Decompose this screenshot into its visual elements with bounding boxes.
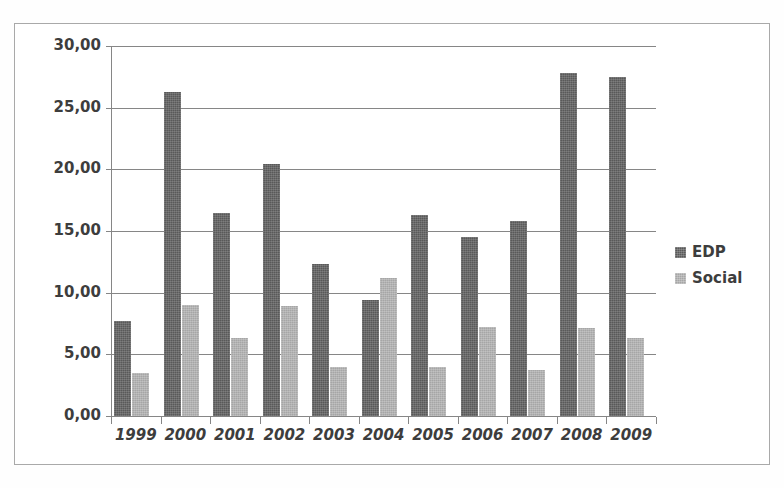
- bar-edp-2009: [609, 77, 626, 416]
- y-axis-tick-label: 10,00: [29, 285, 101, 300]
- bar-group: [507, 46, 557, 416]
- x-axis-tick: [210, 417, 211, 424]
- legend-label: EDP: [692, 245, 726, 260]
- x-axis-label-2009: 2009: [603, 428, 659, 443]
- x-axis-tick: [161, 417, 162, 424]
- chart-legend: EDPSocial: [675, 239, 767, 291]
- bar-social-2002: [281, 306, 298, 416]
- x-axis-label-2004: 2004: [356, 428, 412, 443]
- bar-group: [606, 46, 656, 416]
- bar-edp-2007: [510, 221, 527, 416]
- x-axis-label-2000: 2000: [157, 428, 213, 443]
- x-axis-label-2003: 2003: [306, 428, 362, 443]
- bar-social-2007: [528, 370, 545, 416]
- bar-edp-2003: [312, 264, 329, 416]
- x-axis-tick: [359, 417, 360, 424]
- bar-edp-2004: [362, 300, 379, 416]
- x-axis-tick: [458, 417, 459, 424]
- bar-group: [408, 46, 458, 416]
- x-axis-tick: [309, 417, 310, 424]
- y-axis-tick-label: 5,00: [29, 346, 101, 361]
- bar-edp-2000: [164, 92, 181, 416]
- bar-social-2006: [479, 327, 496, 416]
- bar-social-2003: [330, 367, 347, 416]
- y-axis-tick-label: 15,00: [29, 223, 101, 238]
- x-axis-labels: 1999200020012002200320042005200620072008…: [111, 428, 656, 458]
- x-axis-tick: [111, 417, 112, 424]
- plot-area: [111, 46, 656, 416]
- bar-social-2000: [182, 305, 199, 416]
- x-axis-label-2007: 2007: [504, 428, 560, 443]
- bar-group: [210, 46, 260, 416]
- y-axis-tick-label: 25,00: [29, 100, 101, 115]
- bar-social-1999: [132, 373, 149, 416]
- bar-social-2004: [380, 278, 397, 416]
- y-axis-tick-label: 0,00: [29, 408, 101, 423]
- x-axis-label-2006: 2006: [455, 428, 511, 443]
- x-axis-tick: [408, 417, 409, 424]
- y-axis-tick-label: 20,00: [29, 161, 101, 176]
- x-axis-label-2001: 2001: [207, 428, 263, 443]
- gridline: [111, 416, 656, 417]
- bar-group: [111, 46, 161, 416]
- bar-group: [260, 46, 310, 416]
- x-axis-tick: [557, 417, 558, 424]
- x-axis-label-1999: 1999: [108, 428, 164, 443]
- bar-social-2005: [429, 367, 446, 416]
- bar-social-2009: [627, 338, 644, 416]
- bar-edp-2006: [461, 237, 478, 416]
- bar-edp-2008: [560, 73, 577, 416]
- bar-edp-1999: [114, 321, 131, 416]
- y-axis-tick-label: 30,00: [29, 38, 101, 53]
- bar-edp-2005: [411, 215, 428, 416]
- legend-item-edp[interactable]: EDP: [675, 239, 767, 265]
- x-axis-tick: [507, 417, 508, 424]
- x-axis-tick: [656, 417, 657, 424]
- bar-group: [458, 46, 508, 416]
- legend-swatch-icon: [675, 273, 686, 284]
- bar-group: [359, 46, 409, 416]
- bar-group: [161, 46, 211, 416]
- bar-social-2001: [231, 338, 248, 416]
- bar-edp-2001: [213, 213, 230, 417]
- chart-frame: 0,005,0010,0015,0020,0025,0030,00 199920…: [14, 23, 770, 465]
- legend-swatch-icon: [675, 247, 686, 258]
- x-axis-label-2008: 2008: [554, 428, 610, 443]
- legend-item-social[interactable]: Social: [675, 265, 767, 291]
- bar-edp-2002: [263, 164, 280, 416]
- bar-social-2008: [578, 328, 595, 416]
- x-axis-label-2005: 2005: [405, 428, 461, 443]
- bar-group: [557, 46, 607, 416]
- x-axis-tick: [606, 417, 607, 424]
- x-axis-tick: [260, 417, 261, 424]
- y-axis-labels: 0,005,0010,0015,0020,0025,0030,00: [25, 24, 101, 466]
- bar-group: [309, 46, 359, 416]
- chart-page: 0,005,0010,0015,0020,0025,0030,00 199920…: [0, 0, 784, 488]
- legend-label: Social: [692, 271, 742, 286]
- x-axis-label-2002: 2002: [256, 428, 312, 443]
